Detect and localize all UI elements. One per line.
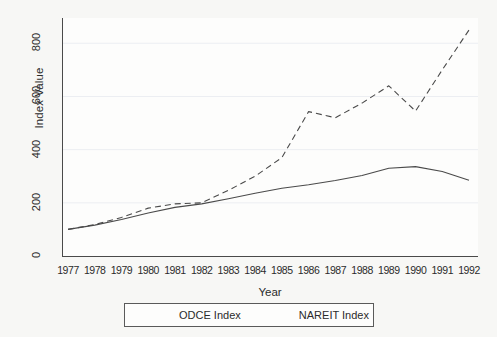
x-tick-label: 1983 (214, 264, 242, 276)
chart-figure: Index Value 0200400600800 19771978197919… (0, 0, 497, 337)
legend-key-solid-icon (129, 315, 173, 316)
x-tick-label: 1987 (321, 264, 349, 276)
x-tick-label: 1981 (161, 264, 189, 276)
x-tick-label: 1979 (107, 264, 135, 276)
y-tick-label: 0 (30, 238, 42, 272)
x-axis-title: Year (62, 286, 478, 298)
legend-key-dashed-icon (249, 315, 293, 316)
x-tick-label: 1992 (455, 264, 483, 276)
y-tick-label: 400 (30, 132, 42, 166)
plot-canvas (62, 18, 478, 257)
x-tick-label: 1991 (428, 264, 456, 276)
x-tick-label: 1986 (295, 264, 323, 276)
x-tick-label: 1989 (375, 264, 403, 276)
legend-label-odce: ODCE Index (179, 309, 241, 321)
gridlines (62, 43, 478, 203)
x-tick-label: 1985 (268, 264, 296, 276)
legend-entry-nareit: NAREIT Index (249, 309, 369, 321)
y-tick-label: 600 (30, 78, 42, 112)
y-tick-label: 800 (30, 25, 42, 59)
plot-area (62, 18, 478, 257)
x-tick-label: 1978 (81, 264, 109, 276)
x-tick-label: 1988 (348, 264, 376, 276)
x-tick-label: 1982 (188, 264, 216, 276)
axis-lines (62, 18, 478, 257)
series-line-nareit (68, 30, 469, 229)
y-tick-label: 200 (30, 185, 42, 219)
series-line-odce (68, 167, 469, 230)
x-tick-label: 1980 (134, 264, 162, 276)
x-tick-label: 1977 (54, 264, 82, 276)
x-tick-label: 1990 (402, 264, 430, 276)
legend-entry-odce: ODCE Index (129, 309, 241, 321)
chart-legend: ODCE Index NAREIT Index (124, 303, 374, 327)
x-tick-label: 1984 (241, 264, 269, 276)
legend-label-nareit: NAREIT Index (299, 309, 369, 321)
